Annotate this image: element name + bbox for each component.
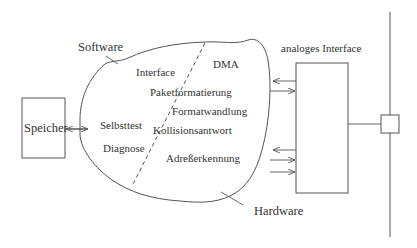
function-dma: DMA bbox=[213, 58, 239, 70]
function-interface: Interface bbox=[136, 66, 175, 78]
function-selbsttest: Selbsttest bbox=[100, 119, 142, 131]
hardware-label: Hardware bbox=[254, 204, 304, 218]
function-adresserkennung: Adreßerkennung bbox=[166, 152, 240, 164]
software-label: Software bbox=[78, 40, 124, 54]
diagram-svg: Speicher Software Hardware Interface Sel… bbox=[0, 0, 417, 248]
network-interface-diagram: Speicher Software Hardware Interface Sel… bbox=[0, 0, 417, 248]
speicher-label: Speicher bbox=[24, 121, 69, 135]
interface-arrows bbox=[270, 81, 296, 172]
function-diagnose: Diagnose bbox=[103, 142, 145, 154]
analog-interface-label: analoges Interface bbox=[281, 42, 361, 54]
analog-interface-box bbox=[296, 63, 348, 193]
bus-transceiver-box bbox=[381, 115, 399, 133]
function-paketformatierung: Paketformatierung bbox=[150, 86, 232, 98]
function-kollisionsantwort: Kollisionsantwort bbox=[153, 124, 232, 136]
function-formatwandlung: Formatwandlung bbox=[172, 105, 248, 117]
